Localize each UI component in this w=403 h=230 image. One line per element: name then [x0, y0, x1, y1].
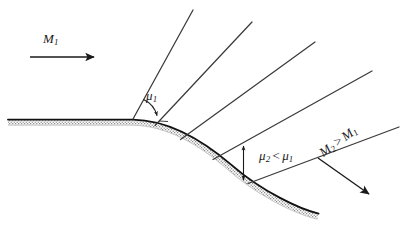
label-mach-angle-1: μ1	[146, 88, 157, 104]
label-mu2-base: μ	[259, 148, 266, 163]
mu1-tangent-tick	[159, 121, 168, 122]
label-mu-relation-symbol: <	[270, 148, 282, 163]
wall-surface-group	[8, 120, 319, 220]
mach-line-2	[155, 22, 252, 126]
figure-canvas	[0, 0, 403, 230]
downstream-flow-arrow	[318, 158, 369, 194]
label-mu1-base: μ	[146, 88, 153, 103]
expansion-fan-figure: M1 μ1 μ2<μ1 M2>M1	[0, 0, 403, 230]
label-upstream-mach-number: M1	[43, 31, 58, 47]
label-mach-angle-comparison: μ2<μ1	[259, 148, 293, 164]
wall-underside-line	[8, 125, 317, 219]
mach-line-3	[181, 42, 316, 140]
wall-hatch-band	[8, 120, 319, 219]
label-mu1-ref-subscript: 1	[289, 154, 294, 164]
label-m1-base: M	[43, 31, 54, 46]
mach-line-1	[133, 10, 193, 119]
label-m1-subscript: 1	[54, 37, 59, 47]
label-mu1-subscript: 1	[153, 94, 158, 104]
label-mu1-ref-base: μ	[282, 148, 289, 163]
